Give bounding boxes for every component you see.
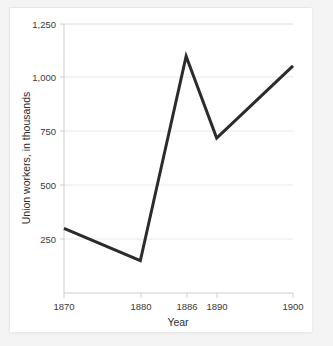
x-tick-label-1886: 1886: [176, 301, 197, 312]
y-tick-label-250: 250: [40, 234, 56, 245]
y-tick-label-1250: 1,250: [32, 19, 56, 30]
y-tick-label-750: 750: [40, 126, 56, 137]
y-tick-label-500: 500: [40, 180, 56, 191]
y-tick-label-1000: 1,000: [32, 72, 56, 83]
x-tick-label-1900: 1900: [282, 301, 303, 312]
y-axis-title: Union workers, in thousands: [20, 92, 32, 225]
chart-card: 1,250 1,000 750 500 250 1870 1880 1886 1…: [9, 7, 311, 331]
x-tick-label-1890: 1890: [206, 301, 227, 312]
screenshot-root: 1,250 1,000 750 500 250 1870 1880 1886 1…: [0, 0, 333, 346]
x-tick-label-1870: 1870: [53, 301, 74, 312]
line-chart: 1,250 1,000 750 500 250 1870 1880 1886 1…: [10, 8, 312, 332]
x-axis-title: Year: [167, 316, 189, 328]
x-tick-label-1880: 1880: [130, 301, 151, 312]
